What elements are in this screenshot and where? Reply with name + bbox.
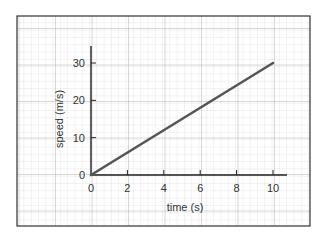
x-axis-label: time (s): [167, 201, 204, 213]
y-tick-label: 30: [73, 57, 85, 69]
y-tick-label: 0: [79, 169, 85, 181]
x-tick-label: 2: [124, 182, 130, 194]
x-tick-label: 0: [88, 182, 94, 194]
x-tick-label: 4: [161, 182, 167, 194]
y-tick-label: 20: [73, 94, 85, 106]
y-axis-label: speed (m/s): [53, 90, 65, 148]
x-tick-label: 10: [267, 182, 279, 194]
x-tick-label: 8: [234, 182, 240, 194]
x-tick-label: 6: [197, 182, 203, 194]
y-tick-label: 10: [73, 132, 85, 144]
speed-time-graph: 02468100102030 time (s) speed (m/s): [0, 0, 322, 239]
